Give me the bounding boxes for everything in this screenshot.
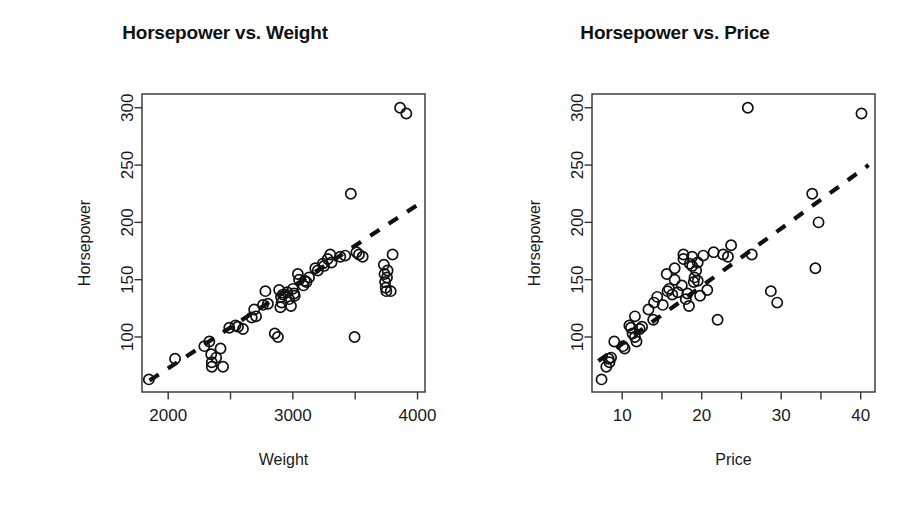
- x-axis-title: Weight: [259, 451, 309, 468]
- data-point: [387, 249, 397, 259]
- data-point: [215, 343, 225, 353]
- x-axis-tick-label: 3000: [274, 406, 312, 425]
- data-point: [856, 108, 866, 118]
- data-point: [698, 251, 708, 261]
- trend-line: [149, 204, 418, 381]
- data-point: [726, 240, 736, 250]
- x-axis-title: Price: [715, 451, 752, 468]
- data-point: [702, 285, 712, 295]
- y-axis-tick-label: 250: [569, 151, 588, 179]
- y-axis-tick-label: 150: [569, 265, 588, 293]
- x-axis-tick-label: 10: [613, 406, 632, 425]
- panel-horsepower-vs-price: Horsepower vs. Price 1020304010015020025…: [450, 0, 900, 510]
- y-axis-tick-label: 250: [119, 151, 138, 179]
- data-point: [218, 362, 228, 372]
- data-point: [766, 286, 776, 296]
- data-point: [813, 217, 823, 227]
- data-point: [630, 311, 640, 321]
- plot-frame: [142, 94, 425, 392]
- x-axis-tick-label: 2000: [149, 406, 187, 425]
- scatter-plot-right: 10203040100150200250300PriceHorsepower: [450, 0, 900, 510]
- x-axis-tick-label: 20: [692, 406, 711, 425]
- plot-frame: [592, 94, 875, 392]
- data-point: [709, 247, 719, 257]
- y-axis-tick-label: 300: [569, 94, 588, 122]
- y-axis-tick-label: 200: [119, 208, 138, 236]
- data-points: [596, 103, 866, 385]
- data-points: [144, 103, 412, 385]
- y-axis-tick-label: 300: [119, 94, 138, 122]
- x-axis-tick-label: 4000: [399, 406, 437, 425]
- x-axis-tick-label: 30: [772, 406, 791, 425]
- data-point: [713, 315, 723, 325]
- x-axis-tick-label: 40: [851, 406, 870, 425]
- y-axis-title: Horsepower: [526, 199, 543, 286]
- y-axis-tick-label: 100: [119, 323, 138, 351]
- data-point: [670, 263, 680, 273]
- data-point: [772, 298, 782, 308]
- data-point: [643, 304, 653, 314]
- data-point: [807, 189, 817, 199]
- scatter-plot-left: 200030004000100150200250300WeightHorsepo…: [0, 0, 450, 510]
- figure-canvas: Horsepower vs. Weight 200030004000100150…: [0, 0, 900, 510]
- data-point: [286, 301, 296, 311]
- data-point: [346, 189, 356, 199]
- data-point: [395, 103, 405, 113]
- y-axis-tick-label: 150: [119, 265, 138, 293]
- data-point: [670, 275, 680, 285]
- y-axis-title: Horsepower: [76, 199, 93, 286]
- data-point: [810, 263, 820, 273]
- y-axis-tick-label: 100: [569, 323, 588, 351]
- data-point: [596, 374, 606, 384]
- trend-line: [598, 165, 868, 361]
- data-point: [401, 108, 411, 118]
- data-point: [349, 332, 359, 342]
- data-point: [260, 286, 270, 296]
- panel-horsepower-vs-weight: Horsepower vs. Weight 200030004000100150…: [0, 0, 450, 510]
- data-point: [743, 103, 753, 113]
- y-axis-tick-label: 200: [569, 208, 588, 236]
